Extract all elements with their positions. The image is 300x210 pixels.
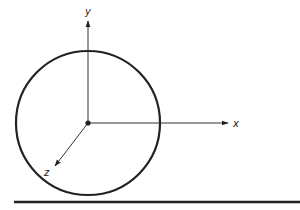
y-axis-label: y (84, 6, 92, 17)
diagram-canvas: y x z (0, 0, 300, 210)
x-axis-label: x (232, 118, 239, 129)
z-axis-label: z (43, 167, 50, 178)
origin-dot (85, 120, 90, 125)
z-axis (55, 123, 88, 166)
